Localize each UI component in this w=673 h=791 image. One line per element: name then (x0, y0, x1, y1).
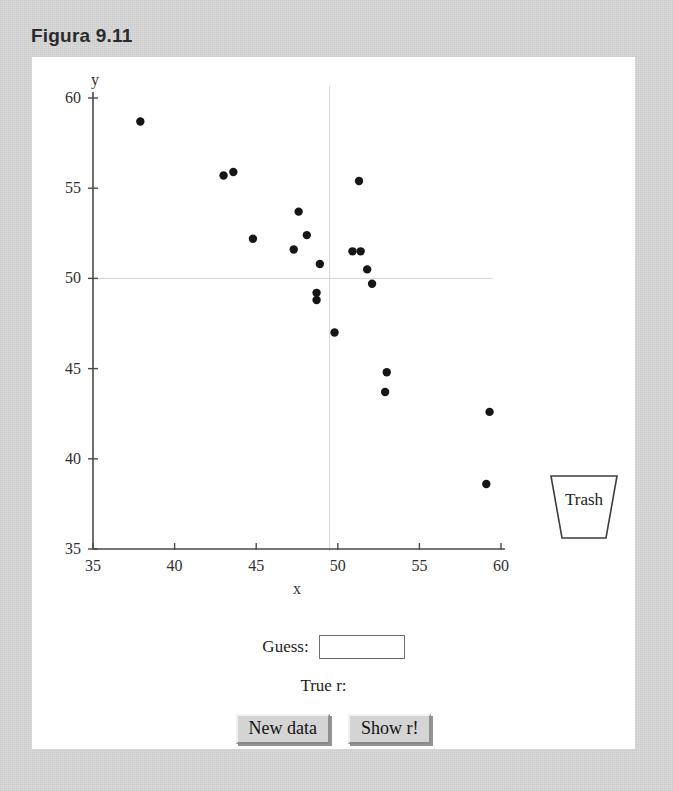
x-tick-label: 45 (248, 557, 264, 574)
guess-label: Guess: (262, 637, 308, 657)
y-tick-label: 45 (65, 360, 81, 377)
data-point[interactable] (136, 117, 144, 125)
data-point[interactable] (294, 207, 302, 215)
data-point[interactable] (485, 408, 493, 416)
data-point[interactable] (383, 368, 391, 376)
data-point[interactable] (348, 247, 356, 255)
true-r-row: True r: (33, 676, 634, 696)
data-point[interactable] (290, 245, 298, 253)
y-tick-label: 35 (65, 540, 81, 557)
trash-can[interactable]: Trash (543, 468, 625, 546)
figure-title: Figura 9.11 (31, 25, 132, 47)
y-tick-label: 50 (65, 269, 81, 286)
data-point[interactable] (312, 289, 320, 297)
y-tick-label: 40 (65, 450, 81, 467)
x-axis-label: x (293, 580, 301, 597)
guess-input[interactable] (319, 635, 405, 659)
y-tick-label: 55 (65, 179, 81, 196)
x-tick-label: 35 (85, 557, 101, 574)
show-r-button[interactable]: Show r! (348, 714, 432, 744)
x-tick-label: 40 (167, 557, 183, 574)
data-point[interactable] (316, 260, 324, 268)
data-point[interactable] (381, 388, 389, 396)
data-point[interactable] (219, 171, 227, 179)
y-axis-label: y (91, 71, 99, 89)
new-data-button[interactable]: New data (236, 714, 330, 744)
data-point[interactable] (482, 480, 490, 488)
data-point[interactable] (368, 280, 376, 288)
data-point[interactable] (363, 265, 371, 273)
buttons-row: New data Show r! (33, 714, 634, 744)
y-tick-label: 60 (65, 89, 81, 106)
x-tick-label: 50 (330, 557, 346, 574)
applet-panel: 354045505560 354045505560 y x Trash Gues… (33, 58, 634, 748)
data-point[interactable] (249, 235, 257, 243)
data-point[interactable] (355, 177, 363, 185)
x-tick-label: 60 (493, 557, 509, 574)
data-point[interactable] (312, 296, 320, 304)
data-point[interactable] (229, 168, 237, 176)
x-tick-label: 55 (411, 557, 427, 574)
data-point[interactable] (356, 247, 364, 255)
controls-panel: Guess: True r: New data Show r! (33, 613, 634, 744)
guess-row: Guess: (33, 635, 634, 659)
x-axis-ticks: 354045505560 (85, 543, 509, 574)
data-point[interactable] (330, 328, 338, 336)
true-r-label: True r: (300, 676, 346, 696)
trash-label: Trash (543, 490, 625, 510)
data-points[interactable] (136, 117, 494, 488)
data-point[interactable] (303, 231, 311, 239)
